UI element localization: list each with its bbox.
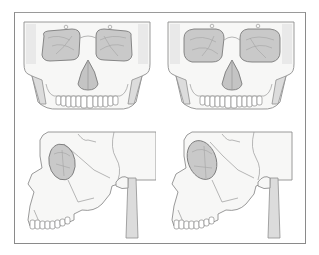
frontal-skull-illustration: [162, 14, 302, 118]
panel-frontal-left: [18, 14, 156, 118]
lateral-skull-illustration: [18, 128, 156, 240]
frontal-skull-illustration: [18, 14, 156, 118]
orbit-left: [184, 24, 224, 62]
panel-lateral-left: [18, 128, 156, 240]
panel-lateral-right: [162, 128, 302, 240]
orbit-right: [240, 24, 280, 62]
lateral-skull-illustration: [162, 128, 302, 240]
panel-frontal-right: [162, 14, 302, 118]
